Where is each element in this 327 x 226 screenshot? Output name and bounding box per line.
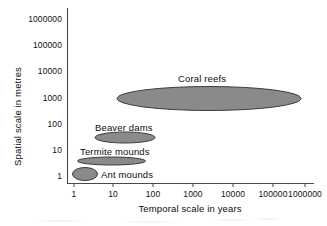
y-tick-label-1000000: 1000000 bbox=[4, 14, 62, 24]
x-tick-label-10: 10 bbox=[93, 189, 133, 199]
y-axis-title: Spatial scale in metres bbox=[12, 67, 23, 166]
x-tick-label-100: 100 bbox=[133, 189, 173, 199]
data-ellipse-ant-mounds[interactable] bbox=[73, 168, 98, 181]
series-label-coral-reefs: Coral reefs bbox=[178, 73, 226, 84]
x-tick-label-10000: 10000 bbox=[213, 189, 253, 199]
x-tick-label-1000: 1000 bbox=[173, 189, 213, 199]
data-ellipse-termite-mounds[interactable] bbox=[78, 157, 146, 165]
series-label-termite-mounds: Termite mounds bbox=[80, 146, 150, 157]
data-ellipse-beaver-dams[interactable] bbox=[95, 132, 155, 143]
series-label-ant-mounds: Ant mounds bbox=[101, 169, 153, 180]
series-label-beaver-dams: Beaver dams bbox=[95, 122, 153, 133]
x-axis-title: Temporal scale in years bbox=[95, 203, 285, 214]
data-ellipse-coral-reefs[interactable] bbox=[117, 87, 301, 111]
y-tick-label-1: 1 bbox=[4, 171, 62, 181]
y-tick-label-100000: 100000 bbox=[4, 40, 62, 50]
chart-figure: 1000000 100000 10000 1000 100 10 1 1 10 … bbox=[0, 0, 327, 226]
x-tick-label-1: 1 bbox=[54, 189, 94, 199]
x-tick-label-1000000: 1000000 bbox=[283, 189, 327, 199]
scan-artifact-band bbox=[0, 214, 327, 226]
